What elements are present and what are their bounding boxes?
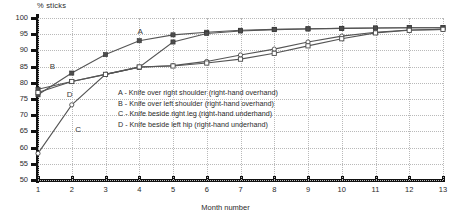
series-marker-B	[306, 27, 310, 31]
y-tick	[31, 66, 37, 69]
series-marker-D	[238, 57, 242, 61]
series-marker-A	[137, 39, 141, 43]
y-tick	[31, 114, 37, 117]
gridline-vertical	[443, 18, 444, 180]
y-tick	[31, 98, 37, 101]
y-tick-label: 50	[2, 176, 28, 184]
series-marker-A	[70, 71, 74, 75]
x-tick-label: 13	[434, 186, 451, 194]
y-tick	[31, 49, 37, 52]
y-tick	[31, 17, 37, 20]
series-marker-D	[171, 64, 175, 68]
x-tick-label: 12	[400, 186, 418, 194]
x-tick-label: 10	[333, 186, 351, 194]
series-label-A: A	[138, 28, 143, 36]
y-tick-label: 60	[2, 144, 28, 152]
series-marker-D	[137, 65, 141, 69]
series-marker-B	[171, 40, 175, 44]
y-tick-label: 95	[2, 30, 28, 38]
legend-item-C: C - Knife beside right leg (right-hand u…	[118, 109, 278, 120]
y-tick-label: 85	[2, 63, 28, 71]
x-tick-label: 4	[130, 186, 148, 194]
series-marker-D	[103, 72, 107, 76]
gridline-horizontal	[38, 180, 443, 181]
series-marker-A	[103, 53, 107, 57]
series-marker-B	[373, 26, 377, 30]
y-axis-title: % sticks	[37, 1, 66, 10]
series-marker-D	[36, 90, 40, 94]
x-axis-title: Month number	[0, 203, 451, 212]
x-tick-label: 1	[29, 186, 47, 194]
y-tick	[31, 163, 37, 166]
y-tick-label: 70	[2, 111, 28, 119]
series-marker-C	[70, 103, 74, 107]
series-marker-C	[272, 47, 276, 51]
x-tick-label: 8	[265, 186, 283, 194]
legend-item-A: A - Knife over right shoulder (right-han…	[118, 88, 278, 99]
series-label-D: D	[67, 91, 73, 99]
series-marker-D	[70, 79, 74, 83]
y-tick-label: 100	[2, 14, 28, 22]
y-tick-label: 75	[2, 95, 28, 103]
legend-item-B: B - Knife over left shoulder (right-hand…	[118, 99, 278, 110]
x-tick-label: 5	[164, 186, 182, 194]
series-marker-C	[36, 151, 40, 155]
series-marker-D	[441, 27, 445, 31]
y-tick-label: 90	[2, 46, 28, 54]
x-tick-label: 7	[232, 186, 250, 194]
series-label-C: C	[75, 126, 81, 134]
legend: A - Knife over right shoulder (right-han…	[118, 88, 278, 130]
series-marker-B	[272, 28, 276, 32]
series-marker-D	[306, 44, 310, 48]
series-marker-D	[205, 61, 209, 65]
y-tick	[31, 130, 37, 133]
series-marker-B	[205, 31, 209, 35]
chart-figure: % sticks Month number 100959085807570656…	[0, 0, 451, 222]
series-label-B: B	[50, 63, 55, 71]
series-marker-D	[407, 28, 411, 32]
series-marker-D	[373, 31, 377, 35]
x-tick-label: 11	[367, 186, 385, 194]
y-tick-label: 80	[2, 79, 28, 87]
x-tick-label: 3	[97, 186, 115, 194]
series-marker-D	[272, 51, 276, 55]
y-tick	[31, 82, 37, 85]
x-tick-label: 9	[299, 186, 317, 194]
series-marker-D	[340, 37, 344, 41]
series-marker-A	[171, 33, 175, 37]
y-tick	[31, 33, 37, 36]
series-marker-B	[340, 26, 344, 30]
y-tick	[31, 147, 37, 150]
y-tick-label: 55	[2, 160, 28, 168]
series-marker-B	[238, 29, 242, 33]
x-tick-label: 2	[63, 186, 81, 194]
y-tick-label: 65	[2, 127, 28, 135]
x-tick-label: 6	[198, 186, 216, 194]
legend-item-D: D - Knife beside left hip (right-hand un…	[118, 120, 278, 131]
series-marker-C	[238, 53, 242, 57]
